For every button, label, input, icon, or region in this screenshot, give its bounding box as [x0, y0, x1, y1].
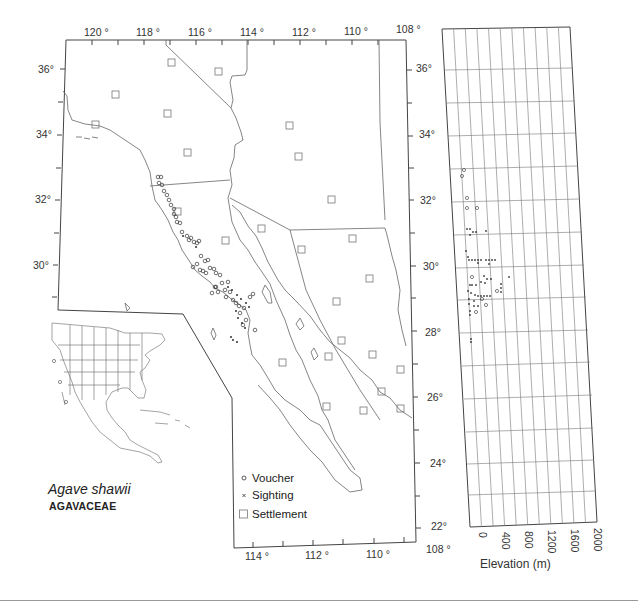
north-america-inset: [52, 323, 190, 463]
top-longitude-labels: 120 ° 118 ° 116 ° 114 ° 112 ° 110 ° 108 …: [84, 23, 421, 38]
species-name: Agave shawii: [48, 481, 131, 497]
left-latitude-labels: 36° 34° 32° 30°: [33, 63, 54, 271]
svg-text:34°: 34°: [419, 128, 435, 140]
elevation-panel: 0 400 800 1200 1600 2000: [442, 27, 604, 554]
map-frame: [58, 40, 416, 548]
svg-text:118 °: 118 °: [136, 26, 160, 38]
svg-text:Voucher: Voucher: [252, 472, 294, 484]
svg-text:112 °: 112 °: [305, 549, 329, 561]
legend-item-voucher: Voucher: [242, 472, 294, 484]
svg-text:32°: 32°: [35, 193, 51, 205]
svg-text:30°: 30°: [33, 259, 49, 271]
svg-text:0: 0: [477, 532, 489, 538]
svg-text:1600: 1600: [569, 529, 581, 553]
svg-text:Sighting: Sighting: [252, 489, 294, 501]
elevation-voucher-points: [460, 168, 498, 313]
map-boundaries: [63, 40, 412, 492]
settlements: [92, 59, 404, 414]
elevation-x-tick-labels: 0 400 800 1200 1600 2000: [477, 528, 604, 554]
settlement-square-icon: [240, 510, 248, 518]
bottom-longitude-labels: 114 ° 112 ° 110 ° 108 °: [245, 543, 451, 562]
left-ticks: [52, 69, 65, 297]
bottom-ticks: [253, 537, 404, 547]
family-name: AGAVACEAE: [49, 500, 116, 512]
right-latitude-labels: 36° 34° 32° 30° 28° 26° 24° 22°: [416, 62, 447, 532]
svg-text:110 °: 110 °: [344, 25, 368, 37]
svg-text:22°: 22°: [431, 520, 447, 532]
svg-text:1200: 1200: [546, 530, 558, 554]
svg-text:120 °: 120 °: [84, 26, 109, 38]
legend-item-sighting: Sighting: [243, 489, 294, 501]
svg-text:110 °: 110 °: [366, 548, 390, 560]
svg-text:30°: 30°: [423, 260, 439, 272]
elevation-sighting-points: [465, 228, 510, 343]
legend: Voucher Sighting Settlement: [240, 472, 308, 520]
svg-text:24°: 24°: [430, 457, 446, 469]
svg-text:108 °: 108 °: [426, 543, 451, 555]
svg-text:36°: 36°: [38, 63, 54, 75]
voucher-circle-icon: [242, 476, 246, 480]
svg-text:Settlement: Settlement: [252, 508, 308, 520]
sighting-x-icon: [243, 494, 246, 497]
top-ticks: [92, 40, 378, 45]
voucher-markers: [156, 175, 257, 332]
svg-text:26°: 26°: [427, 391, 443, 403]
svg-text:32°: 32°: [420, 194, 436, 206]
svg-text:108 °: 108 °: [396, 23, 421, 35]
page-divider: [0, 600, 638, 601]
svg-text:400: 400: [500, 532, 512, 550]
svg-text:2000: 2000: [592, 528, 604, 552]
svg-text:34°: 34°: [36, 128, 52, 140]
svg-text:28°: 28°: [425, 326, 441, 338]
svg-text:800: 800: [523, 531, 535, 549]
svg-text:112 °: 112 °: [292, 26, 316, 38]
svg-text:114 °: 114 °: [245, 550, 269, 562]
svg-text:116 °: 116 °: [188, 26, 212, 38]
elevation-axis-title: Elevation (m): [480, 557, 551, 571]
svg-text:36°: 36°: [416, 62, 432, 74]
legend-item-settlement: Settlement: [240, 508, 308, 520]
svg-text:114 °: 114 °: [240, 26, 264, 38]
figure-canvas: 120 ° 118 ° 116 ° 114 ° 112 ° 110 ° 108 …: [0, 0, 638, 605]
